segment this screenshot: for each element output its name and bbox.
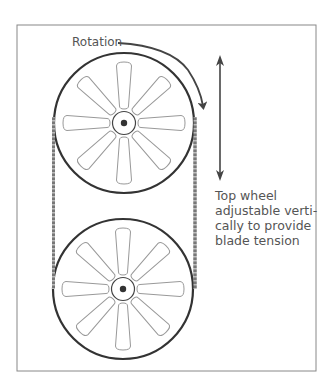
top-wheel bbox=[54, 53, 194, 193]
caption-line: adjustable verti- bbox=[215, 203, 325, 218]
caption-line: blade tension bbox=[215, 233, 325, 248]
vertical-adjust-arrow-icon bbox=[216, 55, 224, 181]
rotation-label: Rotation bbox=[72, 35, 122, 49]
caption-line: Top wheel bbox=[215, 188, 325, 203]
caption-line: cally to provide bbox=[215, 218, 325, 233]
tension-caption: Top wheel adjustable verti- cally to pro… bbox=[215, 188, 325, 248]
bottom-wheel bbox=[53, 219, 193, 359]
